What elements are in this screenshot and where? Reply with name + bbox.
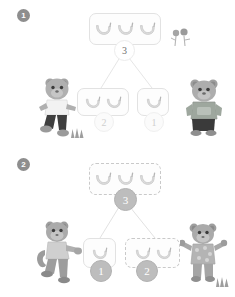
part-number-label: 2 <box>102 117 107 128</box>
section-badge-1: 1 <box>17 9 30 22</box>
banana-icon <box>93 170 113 188</box>
worksheet-page: 1 3 <box>0 0 235 297</box>
banana-icon <box>137 20 157 38</box>
whole-number-label: 3 <box>123 194 129 206</box>
part-number-2b[interactable]: 2 <box>136 260 158 282</box>
banana-icon <box>137 170 157 188</box>
part-number-label: 1 <box>98 265 104 277</box>
worksheet-section-1: 1 3 <box>0 0 235 149</box>
section-badge-2: 2 <box>17 158 30 171</box>
part-number-1a[interactable]: 2 <box>94 112 114 132</box>
banana-icon <box>115 170 135 188</box>
banana-icon <box>154 245 173 262</box>
banana-icon <box>90 245 109 262</box>
whole-number-label: 3 <box>122 45 127 56</box>
flower-icon <box>170 28 192 50</box>
part-number-label: 2 <box>144 265 150 277</box>
banana-icon <box>115 20 135 38</box>
bear-standing-icon <box>182 76 226 138</box>
banana-icon <box>133 245 152 262</box>
part-number-label: 1 <box>152 117 157 128</box>
monkey-running-icon <box>33 217 83 287</box>
grass-icon <box>70 126 86 139</box>
banana-icon <box>83 94 102 111</box>
part-number-1b[interactable]: 1 <box>144 112 164 132</box>
worksheet-section-2: 2 3 <box>0 149 235 297</box>
banana-icon <box>144 94 163 111</box>
grass-icon <box>215 274 231 288</box>
whole-number-1[interactable]: 3 <box>114 40 135 61</box>
whole-number-2[interactable]: 3 <box>114 188 137 211</box>
banana-icon <box>104 94 123 111</box>
banana-icon <box>93 20 113 38</box>
part-number-2a[interactable]: 1 <box>90 260 112 282</box>
